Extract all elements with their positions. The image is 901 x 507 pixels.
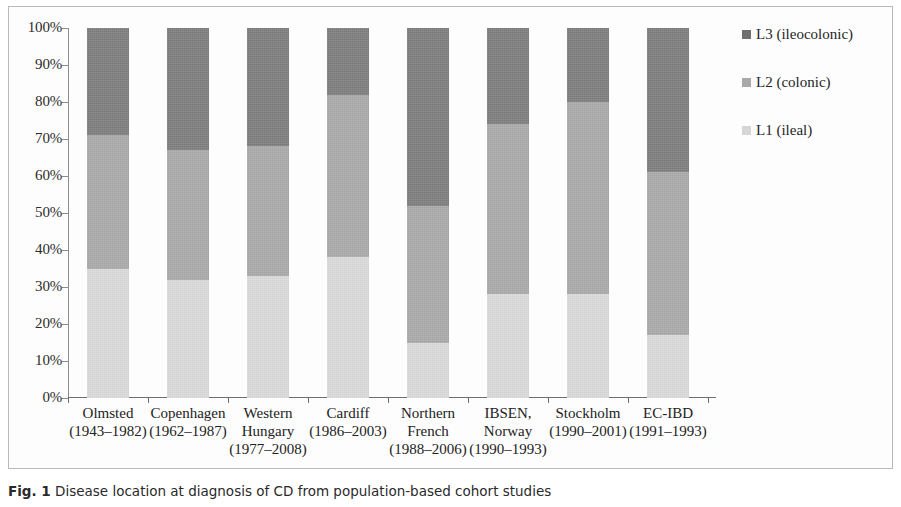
bar-segment [87,269,129,399]
bar-stack [647,28,689,398]
bar-segment [87,135,129,268]
legend-swatch-icon [742,78,751,87]
y-axis-tick-label-text: 100% [10,20,62,35]
figure-caption: Fig. 1 Disease location at diagnosis of … [8,482,893,507]
bar-segment [167,150,209,280]
bar-stack [487,28,529,398]
bar-segment [567,28,609,102]
y-axis-tick-label-text: 70% [10,131,62,146]
bar-segment [167,280,209,398]
y-axis-tick-label-text: 90% [10,57,62,72]
y-axis-tick-label: 90% [0,57,62,72]
category-years: (1991–1993) [616,422,720,440]
plot-area [68,28,708,398]
bar-stack [567,28,609,398]
bar-segment [87,28,129,135]
y-axis-tick-label-text: 10% [10,353,62,368]
category-years: (1990–1993) [456,440,560,458]
y-axis-tick-label: 60% [0,168,62,183]
legend-swatch-icon [742,30,751,39]
bar-segment [407,28,449,206]
figure-container: 0%10%20%30%40%50%60%70%80%90%100% Olmste… [0,0,901,507]
bar-segment [647,28,689,172]
y-axis-tick-label-text: 20% [10,316,62,331]
x-axis-category-label: EC-IBD(1991–1993) [616,404,720,440]
legend-item-label: L2 (colonic) [756,74,831,91]
legend-item: L2 (colonic) [742,74,892,122]
bar-segment [327,257,369,398]
legend-item: L3 (ileocolonic) [742,26,892,74]
figure-number: Fig. 1 [8,483,51,499]
y-axis-tick-label: 80% [0,94,62,109]
y-axis-tick-label: 30% [0,279,62,294]
legend-item-label: L1 (ileal) [756,122,812,139]
bar-segment [407,206,449,343]
category-years: (1977–2008) [216,440,320,458]
y-axis-tick-label-text: 80% [10,94,62,109]
bar-stack [247,28,289,398]
bar-segment [327,95,369,258]
bar-segment [567,294,609,398]
y-axis-tick-label: 10% [0,353,62,368]
legend-item: L1 (ileal) [742,122,892,170]
y-axis-tick-label-text: 0% [10,390,62,405]
y-axis-tick-label: 100% [0,20,62,35]
bar-segment [487,28,529,124]
bar-segment [247,146,289,276]
figure-caption-text: Disease location at diagnosis of CD from… [55,483,551,499]
y-axis-tick-label: 0% [0,390,62,405]
bar-stack [327,28,369,398]
bar-segment [567,102,609,294]
bar-segment [167,28,209,150]
bar-stack [167,28,209,398]
bar-segment [327,28,369,95]
y-axis-tick-label-text: 60% [10,168,62,183]
legend-swatch-icon [742,126,751,135]
bar-stack [407,28,449,398]
bar-segment [247,28,289,146]
y-axis-tick-label: 70% [0,131,62,146]
y-axis-tick-label: 40% [0,242,62,257]
y-axis-tick-label-text: 50% [10,205,62,220]
bar-segment [407,343,449,399]
bar-segment [647,335,689,398]
bar-segment [247,276,289,398]
y-axis-tick-label: 50% [0,205,62,220]
x-axis-tick [708,397,709,403]
category-name: EC-IBD [616,404,720,422]
y-axis-tick-label: 20% [0,316,62,331]
y-axis-tick-label-text: 40% [10,242,62,257]
bar-segment [487,294,529,398]
bar-segment [487,124,529,294]
y-axis-tick-label-text: 30% [10,279,62,294]
bar-stack [87,28,129,398]
legend-item-label: L3 (ileocolonic) [756,26,853,43]
bar-segment [647,172,689,335]
chart-legend: L3 (ileocolonic)L2 (colonic)L1 (ileal) [742,26,892,170]
